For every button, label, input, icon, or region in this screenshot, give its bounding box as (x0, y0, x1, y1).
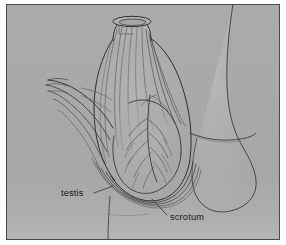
illustration-canvas: testis scrotum (0, 0, 286, 245)
cord-cut-face-lumen (119, 19, 146, 25)
anatomical-figure: testis scrotum (0, 0, 286, 245)
scrotum-label: scrotum (170, 212, 204, 222)
testis-label: testis (61, 188, 84, 198)
